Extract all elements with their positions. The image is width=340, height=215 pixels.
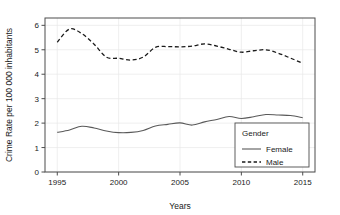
chart-canvas: 0123456 19952000200520102015 Crime Rate … bbox=[0, 0, 340, 215]
y-axis-tick-labels: 0123456 bbox=[35, 21, 40, 177]
crime-rate-line-chart: 0123456 19952000200520102015 Crime Rate … bbox=[0, 0, 340, 215]
legend[interactable]: GenderFemaleMale bbox=[235, 123, 309, 167]
y-axis-title: Crime Rate per 100 000 inhabitants bbox=[4, 28, 14, 162]
y-axis-tick-label: 3 bbox=[35, 95, 40, 104]
legend-title: Gender bbox=[242, 129, 269, 138]
y-axis-tick-label: 2 bbox=[35, 119, 40, 128]
y-axis-ticks bbox=[42, 25, 46, 172]
y-axis-tick-label: 0 bbox=[35, 168, 40, 177]
x-axis-tick-label: 1995 bbox=[48, 178, 66, 187]
x-axis-tick-labels: 19952000200520102015 bbox=[48, 178, 312, 187]
x-axis-ticks bbox=[57, 172, 302, 176]
x-axis-tick-label: 2010 bbox=[232, 178, 250, 187]
y-axis-tick-label: 6 bbox=[35, 21, 40, 30]
legend-label-female[interactable]: Female bbox=[266, 145, 293, 154]
x-axis-tick-label: 2000 bbox=[110, 178, 128, 187]
x-axis-tick-label: 2015 bbox=[294, 178, 312, 187]
y-axis-tick-label: 5 bbox=[35, 46, 40, 55]
y-axis-tick-label: 4 bbox=[35, 70, 40, 79]
y-axis-tick-label: 1 bbox=[35, 144, 40, 153]
x-axis-tick-label: 2005 bbox=[171, 178, 189, 187]
x-axis-title: Years bbox=[169, 201, 190, 211]
legend-label-male[interactable]: Male bbox=[266, 158, 284, 167]
